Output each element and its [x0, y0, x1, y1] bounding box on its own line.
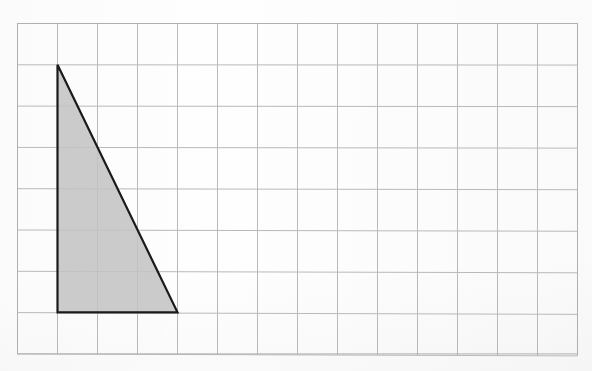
- figure-root: [0, 0, 592, 371]
- grid-line-horizontal: [18, 147, 578, 148]
- grid-line-horizontal: [18, 106, 578, 107]
- grid-figure-canvas: [0, 0, 592, 371]
